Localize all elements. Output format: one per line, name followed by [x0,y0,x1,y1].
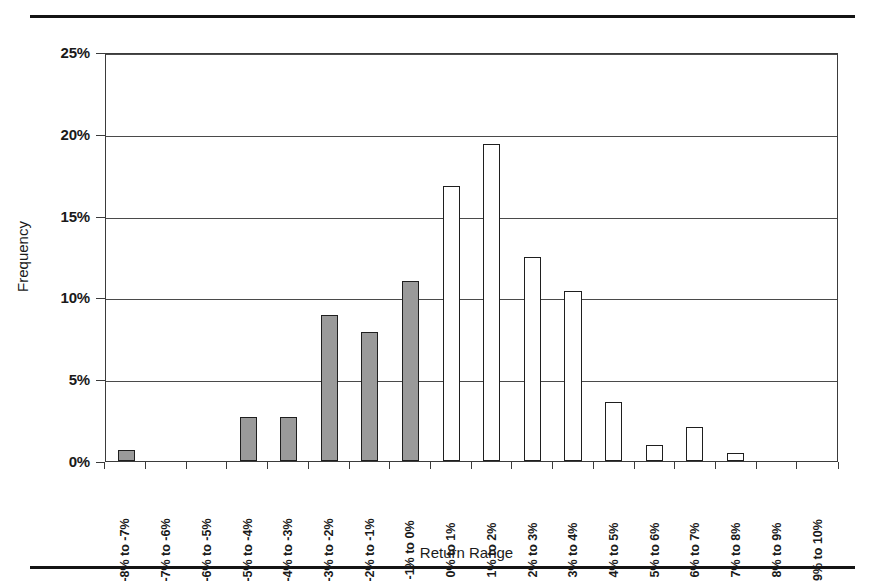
bar-slot [553,54,594,461]
bar [321,315,338,461]
x-tick [593,462,594,469]
x-tick-slot [757,462,798,469]
bar-slot [715,54,756,461]
y-tick-label: 5% [34,372,90,387]
y-tick-5 [96,380,105,381]
x-tick [430,462,431,469]
plot-area [105,53,838,462]
bar-slot [350,54,391,461]
x-tick-slot [431,462,472,469]
bar [727,453,744,461]
x-tick-slot [146,462,187,469]
x-label-slot: -2% to -1% [349,469,390,547]
x-label-slot: 2% to 3% [512,469,553,547]
x-label-slot: -3% to -2% [309,469,350,547]
bar-series [106,54,837,461]
bar [524,257,541,462]
x-tick-slot [186,462,227,469]
x-tick-slot [553,462,594,469]
x-label-slot: 7% to 8% [716,469,757,547]
bar [118,450,135,461]
x-label-slot: 5% to 6% [634,469,675,547]
x-tick [674,462,675,469]
y-tick-label: 25% [34,45,90,60]
x-tick [389,462,390,469]
bar-slot [106,54,147,461]
bar [686,427,703,461]
x-tick [838,462,839,469]
x-tick [145,462,146,469]
x-tick [267,462,268,469]
x-label-slot: 9% to 10% [797,469,838,547]
bar [361,332,378,461]
y-tick-15 [96,217,105,218]
bar [443,186,460,461]
x-tick-slot [594,462,635,469]
x-tick [511,462,512,469]
page-rule-top [30,15,855,18]
x-tick [104,462,105,469]
bar-slot [593,54,634,461]
bar-slot [634,54,675,461]
x-tick-slot [227,462,268,469]
x-label-slot: -6% to -5% [186,469,227,547]
x-label-slot: 1% to 2% [471,469,512,547]
bar-slot [431,54,472,461]
bar [240,417,257,461]
x-tick-slot [471,462,512,469]
x-tick-slot [675,462,716,469]
x-axis-labels: -8% to -7%-7% to -6%-6% to -5%-5% to -4%… [105,469,838,547]
x-tick [308,462,309,469]
y-tick-20 [96,135,105,136]
x-tick-slot [716,462,757,469]
bar-slot [390,54,431,461]
x-tick [226,462,227,469]
x-tick [471,462,472,469]
x-tick-slot [268,462,309,469]
x-tick [552,462,553,469]
x-tick [715,462,716,469]
y-tick-label: 0% [34,454,90,469]
x-label-slot: -1% to 0% [390,469,431,547]
bar [483,144,500,461]
x-tick-slot [390,462,431,469]
bar-slot [147,54,188,461]
x-tick-slot [349,462,390,469]
bar-slot [512,54,553,461]
y-tick-label: 20% [34,127,90,142]
x-label-slot: -4% to -3% [268,469,309,547]
x-tick [634,462,635,469]
bar-slot [309,54,350,461]
x-axis-title: Return Range [0,544,885,561]
bar [402,281,419,461]
bar [564,291,581,461]
bar-slot [756,54,797,461]
y-axis-title: Frequency [14,202,31,312]
x-tick-slot [309,462,350,469]
x-tick [756,462,757,469]
x-tick-slot [105,462,146,469]
bar [280,417,297,461]
y-tick-10 [96,298,105,299]
histogram-figure: Frequency 25%20%15%10%5%0% -8% to -7%-7%… [0,0,885,581]
x-label-slot: 6% to 7% [675,469,716,547]
bar-slot [471,54,512,461]
bar [605,402,622,461]
x-tick [186,462,187,469]
y-tick-25 [96,53,105,54]
x-label-slot: -5% to -4% [227,469,268,547]
x-label-slot: -7% to -6% [146,469,187,547]
x-label-slot: 4% to 5% [594,469,635,547]
bar-slot [187,54,228,461]
bar-slot [675,54,716,461]
x-label-slot: 3% to 4% [553,469,594,547]
bar [646,445,663,461]
x-label-slot: 8% to 9% [757,469,798,547]
x-label-slot: 0% to 1% [431,469,472,547]
bar-slot [268,54,309,461]
y-tick-label: 15% [34,209,90,224]
x-tick-slot [512,462,553,469]
x-tick-slot [634,462,675,469]
bar-slot [796,54,837,461]
bar-slot [228,54,269,461]
